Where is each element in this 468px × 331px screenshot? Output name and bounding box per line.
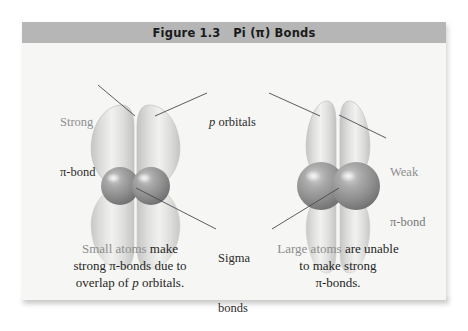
- caption-left-line3: overlap of p orbitals.: [30, 275, 230, 292]
- leader-p-orbitals-right: [269, 93, 320, 116]
- figure-container: Figure 1.3 Pi (π) Bonds: [0, 0, 468, 331]
- leader-p-orbitals-left: [155, 93, 207, 116]
- label-p-orbitals: p orbitals: [209, 79, 256, 165]
- sphere-highlight-right-1: [305, 170, 321, 182]
- sphere-highlight-right-2: [340, 170, 356, 182]
- figure-panel: Figure 1.3 Pi (π) Bonds: [22, 22, 446, 300]
- page-title: Figure 1.3 Pi (π) Bonds: [153, 26, 316, 40]
- caption-left-line3-post: orbitals.: [139, 275, 185, 290]
- caption-right: Large atoms are unable to make strong π-…: [238, 241, 438, 292]
- label-p-orbitals-text: p orbitals: [209, 115, 256, 129]
- label-weak-pi-line1: Weak: [390, 165, 425, 179]
- caption-right-line2: to make strong: [238, 258, 438, 275]
- label-strong-pi-line1: Strong: [60, 115, 95, 129]
- caption-left-line3-pre: overlap of: [76, 275, 132, 290]
- caption-right-highlight: Large atoms: [277, 241, 341, 256]
- caption-right-line3: π-bonds.: [238, 275, 438, 292]
- caption-left: Small atoms make strong π-bonds due to o…: [30, 241, 230, 292]
- caption-right-line1: Large atoms are unable: [238, 241, 438, 258]
- label-strong-pi-line2: π-bond: [60, 165, 95, 179]
- caption-left-line1-rest: make: [147, 241, 178, 256]
- figure-title-banner: Figure 1.3 Pi (π) Bonds: [22, 22, 446, 43]
- sphere-highlight-left-2: [137, 173, 151, 183]
- caption-left-highlight: Small atoms: [82, 241, 147, 256]
- sphere-highlight-left-1: [106, 173, 120, 183]
- caption-left-line1: Small atoms make: [30, 241, 230, 258]
- label-p-orbitals-rest: orbitals: [215, 115, 256, 129]
- caption-left-line2: strong π-bonds due to: [30, 258, 230, 275]
- caption-right-line1-rest: are unable: [342, 241, 399, 256]
- atom-sphere-right-2: [332, 162, 380, 210]
- figure-body: Strong π-bond p orbitals Weak π-bond Sig…: [22, 43, 446, 300]
- label-strong-pi-bond: Strong π-bond: [60, 79, 95, 214]
- label-weak-pi-line2: π-bond: [390, 215, 425, 229]
- label-sigma-line2: bonds: [218, 301, 250, 315]
- atom-sphere-left-2: [132, 167, 170, 205]
